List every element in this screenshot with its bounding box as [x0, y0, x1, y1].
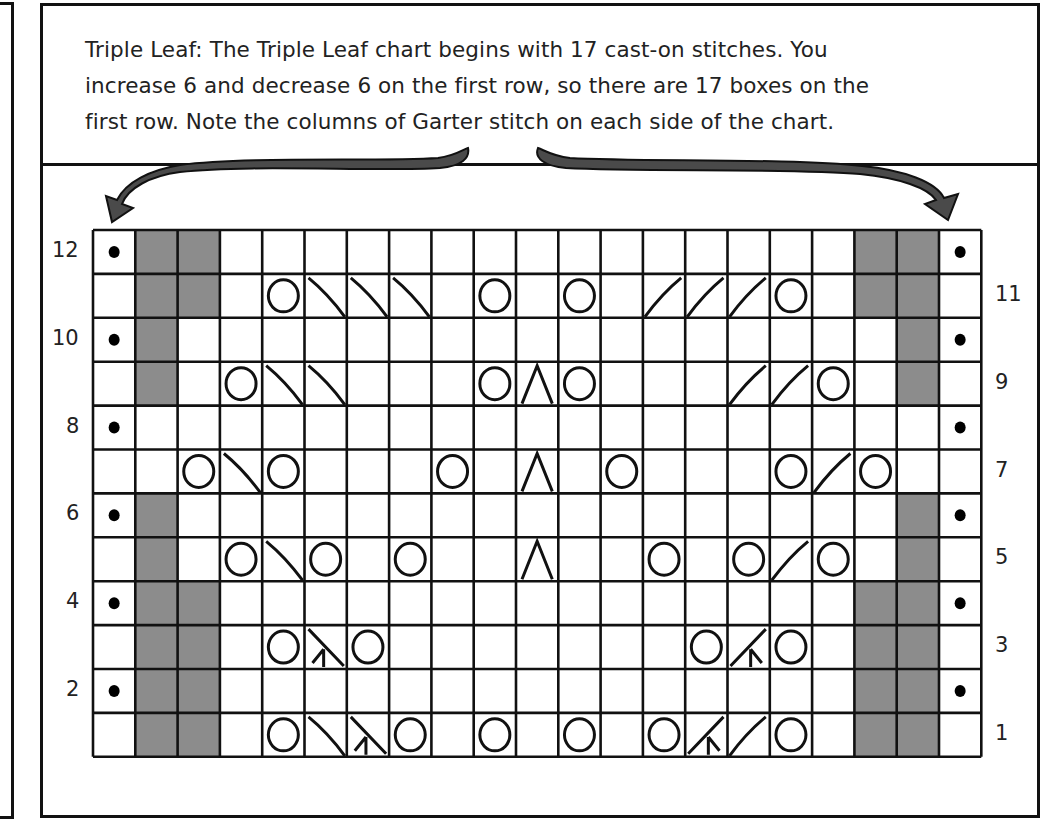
chart-cell-knit	[389, 625, 431, 669]
chart-cell-gray-no-stitch	[854, 669, 896, 713]
chart-cell-knit	[854, 537, 896, 581]
chart-cell-yarn-over	[220, 362, 262, 406]
chart-cell-ssk-left-slant-decrease	[220, 450, 262, 494]
chart-cell-k2tog-right-slant-decrease	[812, 450, 854, 494]
chart-cell-gray-no-stitch	[135, 362, 177, 406]
chart-cell-knit	[601, 230, 643, 274]
chart-cell-knit	[643, 230, 685, 274]
chart-cell-purl-dot	[939, 230, 981, 274]
chart-cell-gray-no-stitch	[178, 713, 220, 757]
chart-cell-knit	[220, 581, 262, 625]
chart-cell-gray-no-stitch	[897, 493, 939, 537]
chart-cell-knit	[601, 406, 643, 450]
chart-cell-knit	[643, 450, 685, 494]
chart-cell-knit	[601, 625, 643, 669]
chart-cell-k2tog-right-slant-decrease	[728, 713, 770, 757]
chart-cell-gray-no-stitch	[135, 318, 177, 362]
chart-cell-knit	[135, 450, 177, 494]
chart-cell-k2tog-right-slant-decrease	[728, 362, 770, 406]
chart-cell-knit	[431, 581, 473, 625]
chart-cell-centered-double-decrease	[516, 450, 558, 494]
chart-cell-knit	[516, 274, 558, 318]
chart-cell-knit	[305, 450, 347, 494]
chart-cell-knit	[770, 318, 812, 362]
row-number-left: 6	[66, 501, 79, 525]
chart-cell-knit	[178, 406, 220, 450]
chart-cell-yarn-over	[770, 625, 812, 669]
chart-cell-knit	[516, 406, 558, 450]
chart-cell-yarn-over	[728, 537, 770, 581]
chart-cell-knit	[474, 493, 516, 537]
chart-cell-yarn-over	[262, 625, 304, 669]
chart-cell-knit	[474, 537, 516, 581]
row-number-left: 2	[66, 677, 79, 701]
chart-cell-yarn-over	[854, 450, 896, 494]
chart-cell-knit	[262, 493, 304, 537]
chart-cell-knit	[854, 318, 896, 362]
chart-cell-knit	[93, 537, 135, 581]
chart-cell-knit	[262, 581, 304, 625]
chart-cell-purl-dot	[939, 406, 981, 450]
chart-cell-gray-no-stitch	[897, 581, 939, 625]
chart-cell-yarn-over	[262, 274, 304, 318]
chart-cell-gray-no-stitch	[854, 274, 896, 318]
chart-cell-purl-dot	[939, 493, 981, 537]
chart-cell-yarn-over	[558, 274, 600, 318]
chart-cell-k2tog-right-slant-decrease	[728, 274, 770, 318]
chart-cell-knit	[516, 230, 558, 274]
chart-cell-knit	[389, 406, 431, 450]
chart-cell-knit	[643, 581, 685, 625]
chart-cell-knit	[516, 493, 558, 537]
left-arrow-icon	[106, 148, 468, 222]
right-arrow-icon	[537, 148, 958, 220]
chart-cell-gray-no-stitch	[178, 581, 220, 625]
knitting-chart	[0, 0, 1058, 837]
chart-cell-knit	[93, 625, 135, 669]
row-number-right: 7	[995, 458, 1008, 482]
chart-cell-yarn-over	[770, 713, 812, 757]
chart-cell-gray-no-stitch	[854, 230, 896, 274]
chart-cell-yarn-over	[178, 450, 220, 494]
chart-cell-knit	[347, 669, 389, 713]
chart-cell-gray-no-stitch	[897, 625, 939, 669]
chart-cell-knit	[474, 230, 516, 274]
chart-cell-ssk-left-slant-decrease	[389, 274, 431, 318]
chart-cell-gray-no-stitch	[897, 274, 939, 318]
chart-cell-knit	[854, 406, 896, 450]
chart-cell-purl-dot	[939, 669, 981, 713]
chart-cell-knit	[474, 581, 516, 625]
chart-cell-gray-no-stitch	[897, 669, 939, 713]
chart-cell-yarn-over	[389, 537, 431, 581]
chart-cell-knit	[474, 669, 516, 713]
chart-cell-knit	[601, 537, 643, 581]
chart-cell-knit	[812, 625, 854, 669]
chart-cell-knit	[685, 230, 727, 274]
chart-cell-knit	[728, 450, 770, 494]
chart-cell-gray-no-stitch	[897, 713, 939, 757]
chart-cell-knit	[389, 230, 431, 274]
chart-cell-left-double-decrease	[347, 713, 389, 757]
chart-cell-knit	[220, 669, 262, 713]
chart-cell-yarn-over	[558, 713, 600, 757]
chart-cell-gray-no-stitch	[854, 713, 896, 757]
chart-cell-centered-double-decrease	[516, 537, 558, 581]
chart-cell-knit	[220, 318, 262, 362]
chart-cell-yarn-over	[262, 450, 304, 494]
chart-cell-knit	[431, 274, 473, 318]
chart-cell-knit	[389, 362, 431, 406]
chart-cell-gray-no-stitch	[135, 274, 177, 318]
chart-cell-gray-no-stitch	[178, 274, 220, 318]
chart-cell-ssk-left-slant-decrease	[305, 274, 347, 318]
chart-cell-knit	[516, 625, 558, 669]
chart-cell-knit	[939, 450, 981, 494]
chart-cell-knit	[558, 669, 600, 713]
chart-cell-knit	[939, 537, 981, 581]
chart-cell-knit	[178, 537, 220, 581]
chart-cell-knit	[558, 406, 600, 450]
chart-cell-knit	[685, 318, 727, 362]
row-number-left: 8	[66, 414, 79, 438]
row-number-left: 4	[66, 589, 79, 613]
chart-cell-knit	[812, 406, 854, 450]
chart-cell-yarn-over	[770, 450, 812, 494]
chart-cell-yarn-over	[474, 274, 516, 318]
